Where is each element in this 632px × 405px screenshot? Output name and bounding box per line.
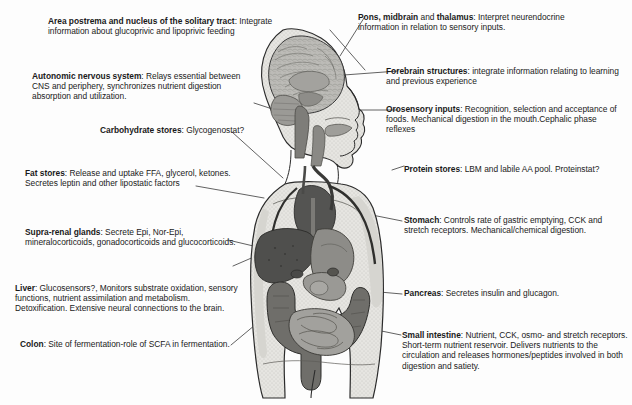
callout-term: Protein stores <box>404 164 460 174</box>
callout-forebrain-structures: Forebrain structures: integrate informat… <box>386 66 626 86</box>
pharynx <box>311 126 325 166</box>
suprarenal-gland-right <box>328 268 339 276</box>
callout-autonomic-nervous-system: Autonomic nervous system: Relays essenti… <box>32 71 258 102</box>
pancreas-head <box>310 281 328 295</box>
callout-term-third: thalamus <box>437 12 474 22</box>
torso-group <box>251 166 384 398</box>
callout-term: Pons, midbrain <box>358 12 418 22</box>
callout-term: Colon <box>20 339 44 349</box>
callout-body: : Glycogenostat? <box>182 125 245 135</box>
callout-orosensory-inputs: Orosensory inputs: Recognition, selectio… <box>386 104 628 135</box>
diagram-page: Area postrema and nucleus of the solitar… <box>0 0 632 405</box>
callout-term: Pancreas <box>404 288 441 298</box>
callout-term: Orosensory inputs <box>386 104 460 114</box>
callout-colon: Colon: Site of fermentation-role of SCFA… <box>20 339 242 349</box>
callout-liver: Liver: Glucosensors?, Monitors substrate… <box>15 283 243 314</box>
callout-protein-stores: Protein stores: LBM and labile AA pool. … <box>404 164 628 174</box>
callout-term: Supra-renal glands <box>25 227 101 237</box>
callout-term: Carbohydrate stores <box>100 125 182 135</box>
callout-body: : LBM and labile AA pool. Proteinstat? <box>460 164 599 174</box>
callout-small-intestine: Small intestine: Nutrient, CCK, osmo- an… <box>402 330 628 371</box>
callout-supra-renal-glands: Supra-renal glands: Secrete Epi, Nor-Epi… <box>25 227 253 247</box>
callout-term: Area postrema and nucleus of the solitar… <box>48 16 235 26</box>
head-sagittal-group <box>262 29 365 188</box>
callout-term: Fat stores <box>25 168 65 178</box>
callout-body: : Site of fermentation-role of SCFA in f… <box>44 339 230 349</box>
callout-body: : Glucosensors?, Monitors substrate oxid… <box>15 283 238 313</box>
callout-term-conjunction: and <box>418 12 437 22</box>
callout-term: Small intestine <box>402 330 461 340</box>
suprarenal-gland-left <box>291 270 303 278</box>
callout-pons-midbrain-thalamus: Pons, midbrain and thalamus: Interpret n… <box>358 12 598 32</box>
callout-fat-stores: Fat stores: Release and uptake FFA, glyc… <box>25 168 235 188</box>
callout-stomach: Stomach: Controls rate of gastric emptyi… <box>404 215 626 235</box>
neck-outline <box>285 150 291 184</box>
callout-term: Autonomic nervous system <box>32 71 141 81</box>
callout-pancreas: Pancreas: Secretes insulin and glucagon. <box>404 288 628 298</box>
callout-term: Forebrain structures <box>386 66 468 76</box>
callout-term: Stomach <box>404 215 439 225</box>
callout-body: : Secretes insulin and glucagon. <box>441 288 559 298</box>
callout-term: Liver <box>15 283 35 293</box>
callout-area-postrema: Area postrema and nucleus of the solitar… <box>48 16 292 36</box>
callout-carbohydrate-stores: Carbohydrate stores: Glycogenostat? <box>100 125 300 135</box>
